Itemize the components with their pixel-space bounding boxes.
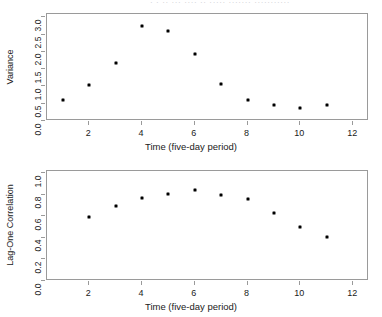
lagone-x-axis-title: Time (five-day period) <box>0 301 382 312</box>
data-point <box>88 216 91 219</box>
x-axis-tick <box>141 281 142 285</box>
x-axis-tick <box>88 121 89 125</box>
x-axis-tick <box>299 281 300 285</box>
data-point <box>61 98 64 101</box>
y-axis-tick-label: 0.6 <box>34 215 43 233</box>
data-point <box>246 198 249 201</box>
data-point <box>325 104 328 107</box>
y-axis-tick-label: 1.5 <box>34 68 43 86</box>
x-axis-tick-label: 4 <box>139 288 144 298</box>
data-point <box>114 204 117 207</box>
x-axis-tick <box>194 121 195 125</box>
data-point <box>141 196 144 199</box>
x-axis-tick <box>299 121 300 125</box>
data-point <box>88 84 91 87</box>
data-point <box>167 192 170 195</box>
figure-page: · · ·· ··· ···· ·· ····· ······· ·······… <box>0 0 382 317</box>
data-point <box>246 98 249 101</box>
data-point <box>220 83 223 86</box>
x-axis-tick <box>88 281 89 285</box>
variance-plot-area <box>46 13 368 120</box>
variance-x-axis-title: Time (five-day period) <box>0 141 382 152</box>
lagone-plot-area <box>46 170 368 280</box>
y-axis-tick-label: 2.0 <box>34 51 43 69</box>
x-axis-tick-label: 2 <box>86 128 91 138</box>
y-axis-tick-label: 0.5 <box>34 103 43 121</box>
data-point <box>272 104 275 107</box>
x-axis-tick <box>247 281 248 285</box>
y-axis-tick-label: 0.4 <box>34 237 43 255</box>
y-axis-tick-label: 0.0 <box>34 280 43 298</box>
data-point <box>193 189 196 192</box>
data-point <box>272 212 275 215</box>
x-axis-tick <box>352 121 353 125</box>
x-axis-tick-label: 8 <box>244 288 249 298</box>
y-axis-tick-label: 0.8 <box>34 194 43 212</box>
y-axis-tick-label: 0.2 <box>34 258 43 276</box>
x-axis-tick <box>141 121 142 125</box>
data-point <box>220 193 223 196</box>
x-axis-tick <box>352 281 353 285</box>
x-axis-tick-label: 10 <box>294 288 304 298</box>
variance-data-points <box>47 14 367 119</box>
y-axis-tick-label: 0.0 <box>34 120 43 138</box>
variance-y-axis-title: Variance <box>5 37 15 97</box>
data-point <box>141 24 144 27</box>
lagone-data-points <box>47 171 367 279</box>
x-axis-tick-label: 2 <box>86 288 91 298</box>
data-point <box>299 106 302 109</box>
x-axis-tick-label: 12 <box>347 288 357 298</box>
x-axis-tick <box>247 121 248 125</box>
y-axis-tick-label: 1.0 <box>34 172 43 190</box>
x-axis-tick-label: 4 <box>139 128 144 138</box>
data-point <box>193 53 196 56</box>
lagone-y-axis-title: Lag-One Correlation <box>5 170 15 280</box>
x-axis-tick-label: 10 <box>294 128 304 138</box>
lagone-scatter-figure: 0.00.20.40.60.81.024681012 Time (five-da… <box>0 159 382 317</box>
data-point <box>167 29 170 32</box>
data-point <box>325 235 328 238</box>
data-point <box>114 61 117 64</box>
y-axis-tick-label: 1.0 <box>34 85 43 103</box>
data-point <box>299 226 302 229</box>
x-axis-tick-label: 12 <box>347 128 357 138</box>
x-axis-tick <box>194 281 195 285</box>
y-axis-tick-label: 3.0 <box>34 16 43 34</box>
variance-scatter-figure: 0.00.51.01.52.02.53.024681012 Time (five… <box>0 2 382 160</box>
x-axis-tick-label: 8 <box>244 128 249 138</box>
x-axis-tick-label: 6 <box>191 288 196 298</box>
x-axis-tick-label: 6 <box>191 128 196 138</box>
y-axis-tick-label: 2.5 <box>34 34 43 52</box>
